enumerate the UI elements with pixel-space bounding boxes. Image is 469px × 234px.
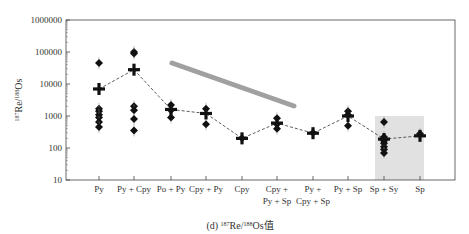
sample-diamond-marker	[95, 123, 103, 131]
y-tick-label: 10	[53, 175, 63, 185]
chart-container: 101001000100001000001000000187Re/188OsPy…	[0, 0, 469, 234]
mean-line	[99, 70, 420, 139]
x-tick-label: Sp + Sy	[370, 184, 399, 194]
mean-cross-marker	[169, 103, 172, 115]
mean-cross-marker	[311, 127, 314, 139]
y-tick-label: 10000	[40, 79, 63, 89]
x-tick-label: Py + Sp	[334, 184, 363, 194]
x-tick-label: Cpy + Sp	[296, 196, 331, 206]
mean-cross-marker	[418, 130, 421, 142]
sample-diamond-marker	[202, 120, 210, 128]
y-axis-label: 187Re/188Os	[13, 78, 24, 121]
trend-arrow	[172, 63, 294, 106]
sample-diamond-marker	[130, 127, 138, 135]
sample-diamond-marker	[130, 115, 138, 123]
mean-cross-marker	[132, 64, 135, 76]
x-tick-label: Sp	[415, 184, 425, 194]
x-tick-label: Cpy	[234, 184, 250, 194]
re-os-chart: 101001000100001000001000000187Re/188OsPy…	[0, 0, 469, 234]
mean-cross-marker	[240, 132, 243, 144]
x-tick-label: Cpy + Py	[189, 184, 224, 194]
mean-cross-marker	[382, 133, 385, 145]
x-tick-label: Py + Cpy	[117, 184, 152, 194]
x-tick-label: Py +	[305, 184, 322, 194]
mean-cross-marker	[97, 83, 100, 95]
x-tick-label: Py	[94, 184, 104, 194]
y-tick-label: 1000	[44, 111, 63, 121]
mean-cross-marker	[204, 107, 207, 119]
sample-diamond-marker	[344, 122, 352, 130]
mean-cross-marker	[346, 110, 349, 122]
x-tick-label: Cpy +	[266, 184, 288, 194]
y-tick-label: 1000000	[31, 15, 63, 25]
y-tick-label: 100	[49, 143, 63, 153]
mean-cross-marker	[275, 117, 278, 129]
figure-caption: (d) 187Re/188Os值	[206, 219, 273, 232]
x-tick-label: Py + Sp	[263, 196, 292, 206]
x-tick-label: Po + Py	[157, 184, 186, 194]
y-tick-label: 100000	[35, 47, 63, 57]
sample-diamond-marker	[130, 49, 138, 57]
sample-diamond-marker	[95, 59, 103, 67]
